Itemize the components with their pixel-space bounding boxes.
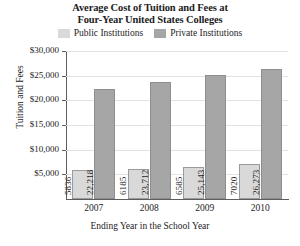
y-axis-tick-label: $25,000	[0, 70, 59, 80]
legend-swatch-private-icon	[154, 29, 166, 38]
gridline	[66, 51, 288, 52]
y-axis-tick-label: $15,000	[0, 119, 59, 129]
y-axis-tick-label: $10,000	[0, 144, 59, 154]
bar-value-text: 26,273	[251, 170, 261, 195]
chart-legend: Public Institutions Private Institutions	[0, 28, 300, 38]
chart-title: Average Cost of Tuition and Fees at Four…	[0, 2, 300, 25]
y-axis-tick-label: $20,000	[0, 94, 59, 104]
bar-value-label: 6185	[128, 186, 138, 204]
x-axis-tick-label-2009: 2009	[177, 203, 233, 213]
bar-chart: Average Cost of Tuition and Fees at Four…	[0, 0, 300, 246]
bar-private-2008: 23,712	[150, 82, 171, 199]
x-axis-tick-label-2008: 2008	[121, 203, 177, 213]
bar-value-text: 5836	[63, 177, 73, 195]
x-axis-title: Ending Year in the School Year	[0, 221, 300, 231]
legend-label-public: Public Institutions	[74, 28, 143, 38]
legend-label-private: Private Institutions	[170, 28, 242, 38]
x-axis-tick-label-2007: 2007	[66, 203, 122, 213]
bar-value-text: 25,143	[196, 170, 206, 195]
bar-value-text: 23,712	[140, 170, 150, 195]
legend-swatch-public-icon	[58, 29, 70, 38]
legend-item-private: Private Institutions	[154, 28, 242, 38]
plot-area: 583622,218618523,712658525,143702026,273	[66, 51, 288, 199]
chart-title-line-2: Four-Year United States Colleges	[0, 14, 300, 26]
bar-private-2007: 22,218	[94, 89, 115, 199]
bar-value-text: 7020	[229, 177, 239, 195]
bar-value-label: 7020	[239, 186, 249, 204]
bar-private-2010: 26,273	[261, 69, 282, 199]
y-axis-tick-label: $5,000	[0, 168, 59, 178]
y-axis-tick-label: $30,000	[0, 45, 59, 55]
bar-value-text: 6585	[174, 177, 184, 195]
x-axis-tick-label-2010: 2010	[232, 203, 288, 213]
bar-value-text: 6185	[118, 177, 128, 195]
bar-value-label: 6585	[184, 186, 194, 204]
gridline	[66, 76, 288, 77]
bar-private-2009: 25,143	[205, 75, 226, 199]
legend-item-public: Public Institutions	[58, 28, 143, 38]
bar-value-label: 5836	[73, 186, 83, 204]
chart-title-line-1: Average Cost of Tuition and Fees at	[0, 2, 300, 14]
bar-value-text: 22,218	[85, 170, 95, 195]
